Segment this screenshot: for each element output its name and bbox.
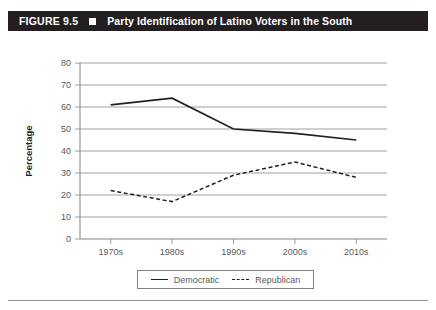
legend-item-republican: Republican — [232, 275, 300, 285]
y-tick-label: 40 — [61, 146, 71, 156]
data-series-group — [111, 98, 357, 201]
legend-item-democratic: Democratic — [151, 275, 220, 285]
legend-label-democratic: Democratic — [174, 275, 220, 285]
figure-title-bar: FIGURE 9.5 Party Identification of Latin… — [8, 11, 428, 31]
white-square-icon — [89, 18, 96, 25]
x-tick-label: 2010s — [344, 247, 369, 257]
bottom-divider — [8, 300, 428, 301]
y-tick-label: 10 — [61, 212, 71, 222]
y-tick-label: 50 — [61, 124, 71, 134]
y-tick-labels-group: 01020304050607080 — [61, 58, 71, 244]
series-line-republican — [111, 162, 357, 202]
legend-label-republican: Republican — [255, 275, 300, 285]
x-tick-label: 1990s — [221, 247, 246, 257]
line-chart-svg: 01020304050607080 1970s1980s1990s2000s20… — [0, 31, 436, 293]
y-tick-label: 0 — [66, 234, 71, 244]
y-tick-marks-group — [75, 63, 80, 239]
x-tick-label: 1970s — [98, 247, 123, 257]
chart-plot-area: 01020304050607080 1970s1980s1990s2000s20… — [0, 31, 436, 293]
figure-title: Party Identification of Latino Voters in… — [107, 15, 352, 27]
y-tick-label: 70 — [61, 80, 71, 90]
x-tick-labels-group: 1970s1980s1990s2000s2010s — [98, 247, 369, 257]
y-tick-label: 20 — [61, 190, 71, 200]
x-tick-marks-group — [111, 239, 357, 244]
dashed-line-swatch-icon — [232, 279, 249, 280]
y-tick-label: 30 — [61, 168, 71, 178]
x-tick-label: 2000s — [283, 247, 308, 257]
series-line-democratic — [111, 98, 357, 140]
figure-container: FIGURE 9.5 Party Identification of Latin… — [0, 0, 436, 310]
solid-line-swatch-icon — [151, 279, 168, 280]
chart-legend: Democratic Republican — [137, 270, 314, 289]
figure-number-label: FIGURE 9.5 — [19, 15, 78, 27]
y-tick-label: 60 — [61, 102, 71, 112]
x-tick-label: 1980s — [160, 247, 185, 257]
y-tick-label: 80 — [61, 58, 71, 68]
y-axis-title: Percentage — [23, 125, 34, 176]
